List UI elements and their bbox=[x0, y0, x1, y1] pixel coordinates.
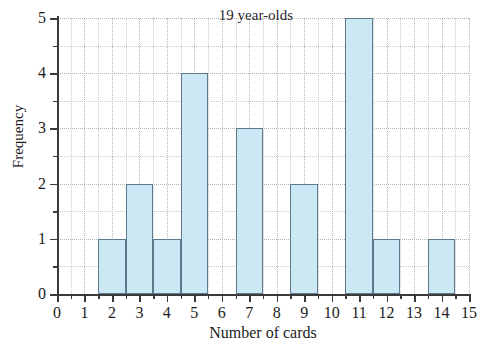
x-axis-tick bbox=[359, 294, 361, 302]
x-axis-tick bbox=[167, 294, 169, 302]
x-axis-tick bbox=[194, 294, 196, 302]
gridline-horizontal-minor bbox=[57, 46, 469, 47]
gridline-vertical bbox=[469, 18, 470, 294]
gridline-horizontal bbox=[57, 128, 469, 129]
bar bbox=[428, 239, 455, 294]
y-axis-tick bbox=[50, 239, 58, 241]
gridline-vertical bbox=[222, 18, 223, 294]
x-axis-tick bbox=[442, 294, 444, 302]
x-axis-tick bbox=[84, 294, 86, 302]
x-axis-tick bbox=[469, 294, 471, 302]
histogram-chart: 0123450123456789101112131415 Frequency N… bbox=[0, 0, 484, 346]
x-axis-label: Number of cards bbox=[57, 324, 469, 342]
x-axis-tick bbox=[304, 294, 306, 302]
y-axis-tick-minor bbox=[53, 46, 58, 47]
bar bbox=[153, 239, 180, 294]
x-axis-tick bbox=[414, 294, 416, 302]
y-axis-tick bbox=[50, 73, 58, 75]
y-axis-tick-minor bbox=[53, 211, 58, 212]
x-axis-tick-minor bbox=[236, 294, 237, 299]
gridline-vertical bbox=[414, 18, 415, 294]
gridline-vertical-minor bbox=[263, 18, 264, 294]
y-axis-tick-label: 5 bbox=[20, 10, 46, 26]
x-axis-tick-minor bbox=[126, 294, 127, 299]
x-axis-tick bbox=[332, 294, 334, 302]
x-axis-tick-minor bbox=[400, 294, 401, 299]
gridline-vertical-minor bbox=[455, 18, 456, 294]
gridline-horizontal-minor bbox=[57, 156, 469, 157]
bar bbox=[290, 184, 317, 294]
x-axis-tick-minor bbox=[71, 294, 72, 299]
bar bbox=[181, 73, 208, 294]
y-axis-tick-minor bbox=[53, 266, 58, 267]
chart-title: 19 year-olds bbox=[200, 7, 312, 24]
x-axis-tick-minor bbox=[98, 294, 99, 299]
x-axis-tick bbox=[249, 294, 251, 302]
x-axis-tick bbox=[139, 294, 141, 302]
x-axis-tick-minor bbox=[345, 294, 346, 299]
x-axis-tick bbox=[277, 294, 279, 302]
x-axis-tick-minor bbox=[428, 294, 429, 299]
x-axis-tick-minor bbox=[318, 294, 319, 299]
y-axis-tick-minor bbox=[53, 101, 58, 102]
plot-area bbox=[57, 18, 469, 294]
gridline-vertical-minor bbox=[318, 18, 319, 294]
x-axis-tick-minor bbox=[153, 294, 154, 299]
x-axis-tick-minor bbox=[181, 294, 182, 299]
gridline-vertical-minor bbox=[208, 18, 209, 294]
x-axis-tick-minor bbox=[263, 294, 264, 299]
x-axis-tick-minor bbox=[373, 294, 374, 299]
gridline-vertical-minor bbox=[400, 18, 401, 294]
y-axis-tick-label: 1 bbox=[20, 231, 46, 247]
bar bbox=[373, 239, 400, 294]
y-axis-tick-label: 0 bbox=[20, 286, 46, 302]
x-axis-tick bbox=[222, 294, 224, 302]
gridline-horizontal-minor bbox=[57, 211, 469, 212]
gridline-horizontal bbox=[57, 73, 469, 74]
x-axis-tick bbox=[57, 294, 59, 302]
x-axis-tick bbox=[112, 294, 114, 302]
gridline-horizontal-minor bbox=[57, 101, 469, 102]
y-axis-label: Frequency bbox=[10, 77, 27, 197]
x-axis-tick bbox=[387, 294, 389, 302]
bar bbox=[126, 184, 153, 294]
bar bbox=[236, 128, 263, 294]
x-axis-tick-minor bbox=[208, 294, 209, 299]
bar bbox=[345, 18, 372, 294]
bar bbox=[98, 239, 125, 294]
gridline-vertical bbox=[332, 18, 333, 294]
y-axis-tick bbox=[50, 128, 58, 130]
gridline-vertical-minor bbox=[71, 18, 72, 294]
y-axis-tick bbox=[50, 184, 58, 186]
x-axis-tick-minor bbox=[455, 294, 456, 299]
y-axis-tick bbox=[50, 18, 58, 20]
y-axis-tick-minor bbox=[53, 156, 58, 157]
x-axis-tick-minor bbox=[290, 294, 291, 299]
gridline-horizontal bbox=[57, 184, 469, 185]
gridline-vertical bbox=[84, 18, 85, 294]
x-axis-tick-label: 15 bbox=[452, 304, 484, 322]
gridline-vertical bbox=[277, 18, 278, 294]
